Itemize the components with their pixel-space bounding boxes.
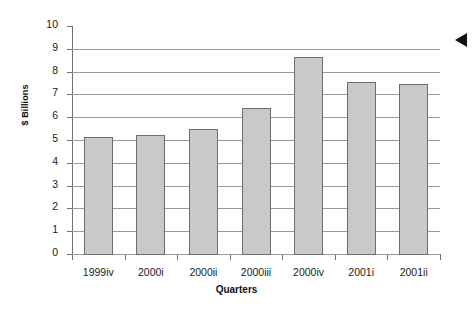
- x-axis-title: Quarters: [0, 284, 473, 295]
- y-axis-tick: 6: [67, 117, 72, 118]
- x-axis-tick: [440, 255, 441, 260]
- y-axis-tick-label: 6: [52, 109, 58, 121]
- x-axis-tick: [282, 255, 283, 260]
- x-axis-tick: [72, 255, 73, 260]
- x-axis-tick: [125, 255, 126, 260]
- left-pointing-triangle-icon: [455, 33, 467, 47]
- y-axis-tick: 10: [67, 26, 72, 27]
- y-axis-tick: 2: [67, 208, 72, 209]
- x-axis-tick-label: 1999iv: [83, 266, 114, 278]
- x-axis-tick-label: 2000ii: [189, 266, 217, 278]
- x-axis-tick-label: 2000iii: [241, 266, 271, 278]
- x-axis-tick-label: 2001i: [348, 266, 374, 278]
- y-axis-tick-label: 4: [52, 155, 58, 167]
- y-axis-tick-label: 1: [52, 223, 58, 235]
- x-axis-tick: [177, 255, 178, 260]
- y-axis-tick-label: 7: [52, 86, 58, 98]
- bar: [189, 129, 218, 255]
- bar: [294, 57, 323, 255]
- y-axis-tick-label: 3: [52, 178, 58, 190]
- y-axis-tick: 5: [67, 140, 72, 141]
- y-axis-tick-label: 10: [46, 18, 58, 30]
- x-axis-tick: [230, 255, 231, 260]
- bar: [242, 108, 271, 255]
- y-axis-tick: 4: [67, 163, 72, 164]
- bar: [136, 135, 165, 255]
- y-axis-tick: 8: [67, 72, 72, 73]
- y-axis-tick-label: 2: [52, 200, 58, 212]
- y-axis-tick-label: 9: [52, 41, 58, 53]
- x-axis-tick-label: 2000iv: [293, 266, 324, 278]
- y-axis-tick: 7: [67, 94, 72, 95]
- y-axis-title: $ Billions: [20, 45, 30, 165]
- y-axis-tick-label: 8: [52, 64, 58, 76]
- gridline: [72, 94, 440, 95]
- x-axis-tick: [335, 255, 336, 260]
- y-axis-tick-label: 0: [52, 246, 58, 258]
- plot-area: 012345678910 1999iv2000i2000ii2000iii200…: [72, 26, 440, 254]
- bar: [347, 82, 376, 255]
- bar: [399, 84, 428, 255]
- gridline: [72, 72, 440, 73]
- x-axis-tick: [387, 255, 388, 260]
- bar-chart: $ Billions 012345678910 1999iv2000i2000i…: [0, 0, 473, 315]
- x-axis-tick-label: 2001ii: [400, 266, 428, 278]
- y-axis-tick: 9: [67, 49, 72, 50]
- y-axis-tick: 3: [67, 186, 72, 187]
- x-axis-tick-label: 2000i: [138, 266, 164, 278]
- y-axis-tick-label: 5: [52, 132, 58, 144]
- y-axis-tick: 1: [67, 231, 72, 232]
- gridline: [72, 49, 440, 50]
- bar: [84, 137, 113, 255]
